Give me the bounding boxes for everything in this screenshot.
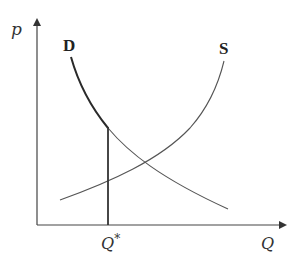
supply-label: S <box>219 39 228 58</box>
quantity-marker-sup: * <box>114 232 120 246</box>
demand-curve-lower <box>108 128 228 209</box>
y-axis-label: p <box>11 19 22 39</box>
x-axis-label: Q <box>261 234 274 253</box>
demand-curve-upper <box>71 57 108 128</box>
supply-demand-diagram: p D S Q* Q <box>0 0 305 263</box>
quantity-marker-label: Q* <box>101 232 120 253</box>
quantity-marker-base: Q <box>101 234 114 253</box>
demand-label: D <box>63 36 75 55</box>
supply-curve <box>60 61 224 200</box>
